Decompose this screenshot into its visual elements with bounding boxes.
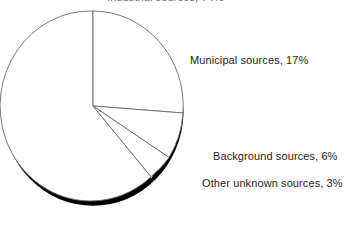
pie-label-background: Background sources, 6% xyxy=(213,150,338,163)
pie-label-industrial: Industrial sources, 74% xyxy=(107,0,224,4)
pie-chart-screenshot: Industrial sources, 74% Municipal source… xyxy=(0,0,359,228)
pie-label-other-unknown: Other unknown sources, 3% xyxy=(202,177,343,190)
pie-chart-graphic xyxy=(0,0,359,228)
pie-face-group xyxy=(0,11,183,201)
pie-label-municipal: Municipal sources, 17% xyxy=(190,54,308,67)
pie-slice-municipal xyxy=(93,11,183,113)
